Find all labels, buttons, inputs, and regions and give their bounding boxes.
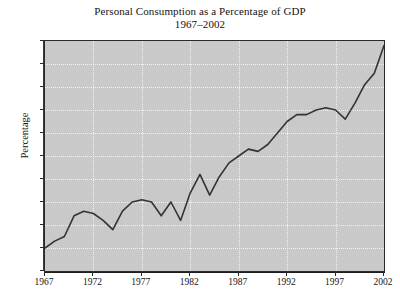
x-tick-mark-1982 (189, 272, 190, 276)
x-tick-mark-1967 (44, 272, 45, 276)
x-tick-label-1987: 1987 (215, 277, 261, 287)
page-title: Personal Consumption as a Percentage of … (0, 5, 400, 18)
x-tick-mark-1997 (335, 272, 336, 276)
x-tick-mark-1972 (92, 272, 93, 276)
x-tick-mark-2002 (383, 272, 384, 276)
x-tick-mark-1992 (286, 272, 287, 276)
y-axis-title: Percentage (19, 76, 30, 196)
chart-title-block: Personal Consumption as a Percentage of … (0, 5, 400, 31)
x-tick-mark-1987 (238, 272, 239, 276)
x-tick-mark-1977 (141, 272, 142, 276)
x-tick-label-1997: 1997 (312, 277, 358, 287)
plot-area (44, 40, 385, 272)
x-tick-label-1992: 1992 (263, 277, 309, 287)
chart-figure: Personal Consumption as a Percentage of … (0, 0, 400, 296)
x-tick-label-1977: 1977 (118, 277, 164, 287)
x-tick-label-1982: 1982 (166, 277, 212, 287)
series-polyline (45, 46, 384, 248)
x-tick-label-2002: 2002 (360, 277, 400, 287)
x-tick-label-1972: 1972 (69, 277, 115, 287)
x-tick-label-1967: 1967 (21, 277, 67, 287)
chart-subtitle: 1967–2002 (0, 18, 400, 31)
data-line-series (45, 41, 384, 271)
